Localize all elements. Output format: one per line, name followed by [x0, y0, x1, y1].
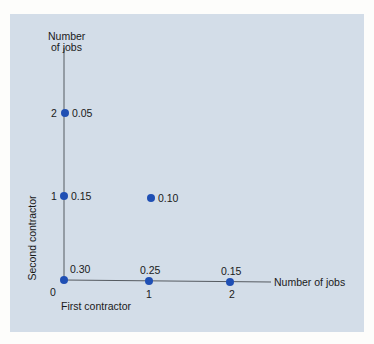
- y-tick-1: 1: [51, 190, 57, 202]
- x-axis-title: First contractor: [61, 300, 131, 312]
- prob-label-2-0: 0.15: [221, 265, 241, 277]
- point-0-1: [60, 192, 68, 200]
- prob-label-0-2: 0.05: [72, 107, 92, 119]
- x-axis-line: [64, 280, 271, 282]
- y-tick-2: 2: [51, 107, 57, 119]
- y-axis-title: Second contractor: [26, 193, 38, 283]
- x-tick-2: 2: [229, 288, 235, 300]
- prob-label-1-0: 0.25: [140, 264, 160, 276]
- prob-label-0-1: 0.15: [71, 190, 91, 202]
- x-tick-1: 1: [146, 288, 152, 300]
- prob-label-1-1: 0.10: [158, 192, 178, 204]
- point-1-1: [147, 194, 155, 202]
- prob-label-0-0: 0.30: [70, 263, 90, 275]
- point-0-2: [61, 109, 69, 117]
- origin-label: 0: [50, 286, 56, 298]
- point-1-0: [145, 277, 153, 285]
- point-0-0: [60, 276, 68, 284]
- x-axis-end-label: Number of jobs: [274, 276, 345, 288]
- y-axis-end-label-line2: of jobs: [51, 41, 82, 53]
- point-2-0: [226, 278, 234, 286]
